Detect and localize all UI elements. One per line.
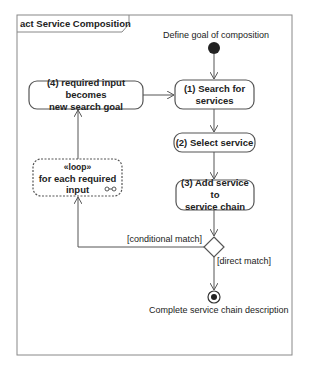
action-2-line1: (2) Select service	[176, 137, 254, 149]
decision-node	[204, 237, 224, 257]
action-1-line1: (1) Search for	[184, 83, 245, 95]
action-1-text: (1) Search for services	[175, 80, 254, 109]
guard-conditional-match: [conditional match]	[127, 234, 202, 244]
action-4-line1: (4) required input becomes	[29, 77, 143, 101]
initial-node	[208, 42, 220, 54]
guard-direct-match: [direct match]	[217, 256, 271, 266]
loop-node-text: «loop» for each required input	[33, 160, 122, 196]
loop-line1: for each required	[39, 173, 117, 184]
action-3-text: (3) Add service to service chain	[176, 180, 254, 210]
frame-title: act Service Composition	[20, 18, 131, 29]
action-3-line1: (3) Add service to	[176, 177, 254, 201]
action-3-line2: service chain	[185, 201, 245, 213]
action-2-text: (2) Select service	[174, 133, 255, 152]
final-node-inner	[211, 294, 217, 300]
loop-line2: input	[66, 184, 89, 195]
action-4-text: (4) required input becomes new search go…	[29, 81, 143, 109]
loop-stereotype: «loop»	[64, 162, 91, 173]
action-1-line2: services	[195, 95, 233, 107]
end-label: Complete service chain description	[149, 305, 289, 315]
action-4-line2: new search goal	[49, 101, 123, 113]
start-label: Define goal of composition	[163, 30, 269, 40]
